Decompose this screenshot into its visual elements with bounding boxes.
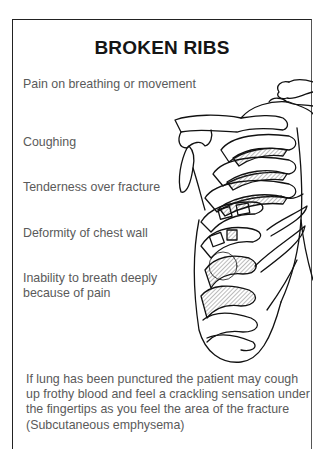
symptom-deformity: Deformity of chest wall xyxy=(23,226,148,241)
broken-ribs-card: BROKEN RIBS Pain on breathing or movemen… xyxy=(12,19,312,449)
footer-note: If lung has been punctured the patient m… xyxy=(26,372,311,433)
card-title: BROKEN RIBS xyxy=(13,37,311,59)
symptom-pain: Pain on breathing or movement xyxy=(23,77,196,92)
symptom-tenderness: Tenderness over fracture xyxy=(23,180,160,195)
symptom-inability-to-breathe: Inability to breath deeply because of pa… xyxy=(23,271,173,301)
symptom-coughing: Coughing xyxy=(23,135,76,150)
rib-cage-illustration-icon xyxy=(171,70,313,370)
